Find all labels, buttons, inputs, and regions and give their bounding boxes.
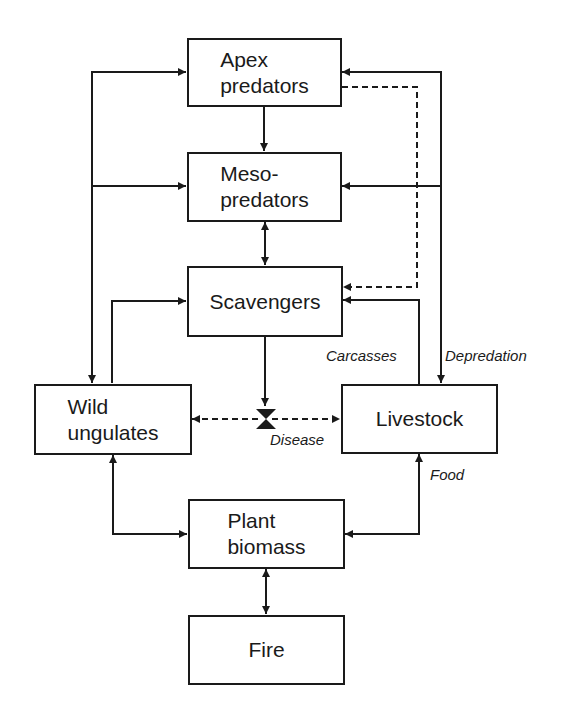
node-label: Fire: [248, 637, 284, 663]
edge-wild-scavengers: [112, 301, 186, 383]
node-label: Wild ungulates: [67, 394, 158, 446]
edge-livestock-scavengers: [343, 300, 419, 384]
label-disease: Disease: [270, 431, 324, 448]
label-carcasses: Carcasses: [326, 347, 397, 364]
node-fire: Fire: [188, 615, 345, 685]
node-scavengers: Scavengers: [187, 266, 343, 337]
node-wild-ungulates: Wild ungulates: [34, 384, 192, 455]
edge-livestock-apex: [342, 72, 441, 383]
node-livestock: Livestock: [341, 384, 498, 454]
node-meso-predators: Meso- predators: [187, 152, 342, 222]
node-apex-predators: Apex predators: [187, 38, 342, 107]
label-depredation: Depredation: [445, 347, 527, 364]
node-label: Meso- predators: [220, 161, 309, 213]
node-label: Scavengers: [210, 289, 321, 315]
edge-wild-apex: [92, 72, 186, 383]
node-plant-biomass: Plant biomass: [188, 499, 345, 569]
node-label: Apex predators: [220, 47, 309, 99]
node-label: Livestock: [376, 406, 464, 432]
edge-plant-wild: [113, 455, 187, 534]
edge-plant-livestock: [345, 454, 419, 534]
label-food: Food: [430, 466, 464, 483]
node-label: Plant biomass: [227, 508, 305, 560]
